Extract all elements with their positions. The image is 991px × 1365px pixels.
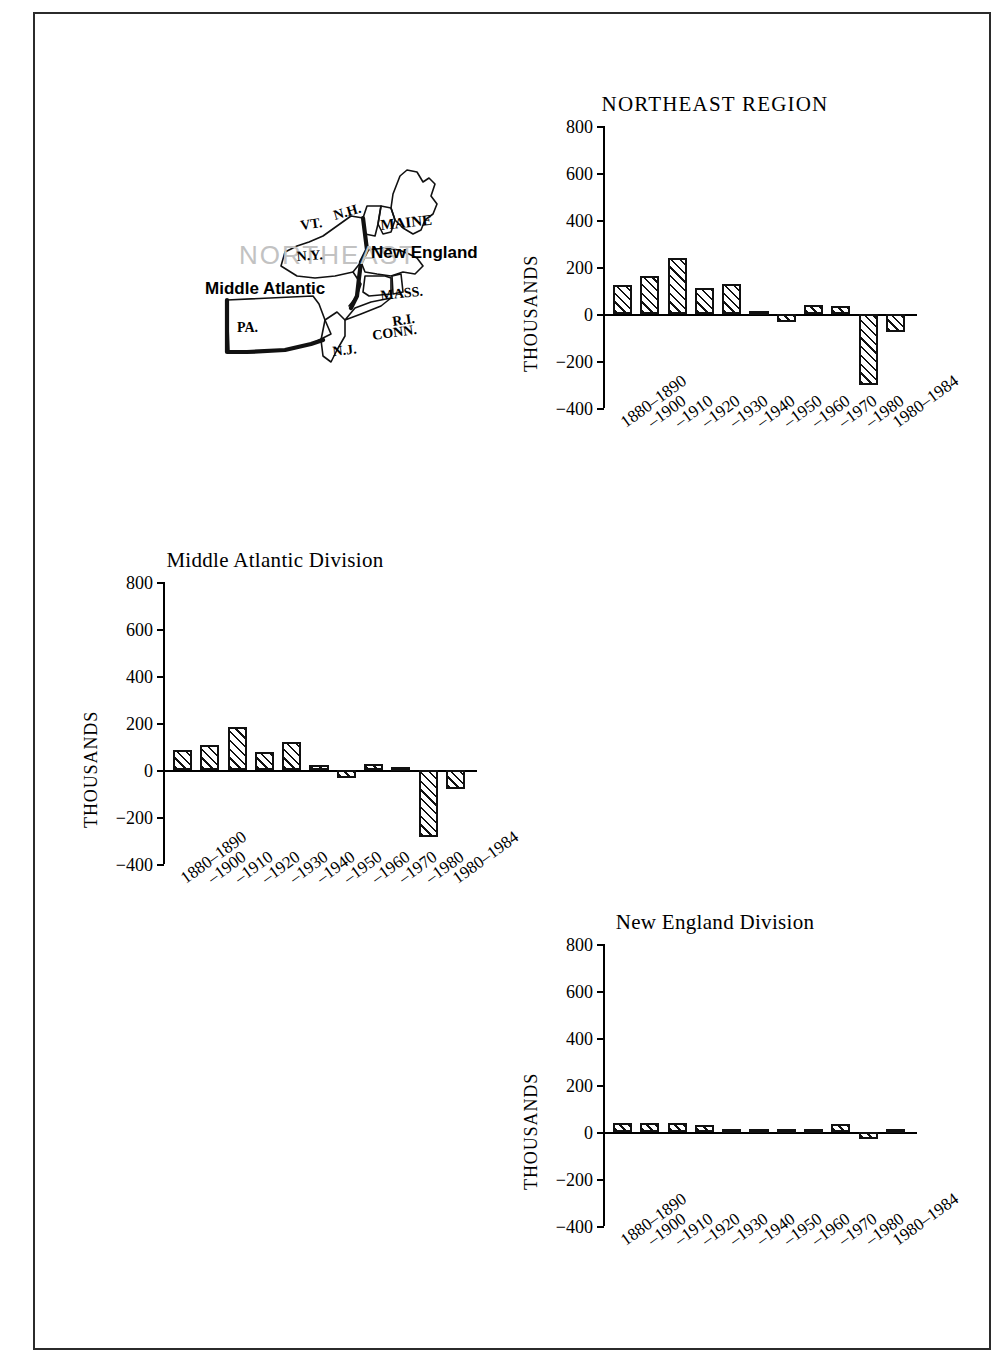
plot-area-northeast-region: 8006004002000−200−400THOUSANDS1880–1890–… <box>505 120 925 420</box>
bar <box>640 1123 659 1132</box>
y-tick-label: −200 <box>537 1170 593 1191</box>
y-tick-label: 400 <box>537 1029 593 1050</box>
map-label-pa: PA. <box>237 320 258 335</box>
y-tick <box>157 676 164 678</box>
bar <box>282 742 301 770</box>
map-label-conn: CONN. <box>371 322 417 343</box>
bar <box>200 745 219 770</box>
bar <box>255 752 274 770</box>
map-label-maine: MAINE <box>380 212 433 233</box>
bar <box>831 306 850 314</box>
bar <box>173 750 192 770</box>
y-tick-label: 600 <box>537 982 593 1003</box>
y-tick-label: −400 <box>537 1217 593 1238</box>
page-frame: NORTHEAST VT. N.H. MAINE N.Y. MASS. R.I.… <box>33 12 991 1350</box>
northeast-region-map: NORTHEAST VT. N.H. MAINE N.Y. MASS. R.I.… <box>185 154 485 394</box>
bar <box>364 764 383 770</box>
map-label-mass: MASS. <box>380 284 424 303</box>
bar <box>831 1124 850 1132</box>
y-tick-label: 800 <box>537 935 593 956</box>
y-tick <box>597 361 604 363</box>
y-tick <box>597 408 604 410</box>
map-label-nh: N.H. <box>332 201 363 223</box>
y-tick-label: 0 <box>97 761 153 782</box>
y-axis-title: THOUSANDS <box>81 711 102 828</box>
y-tick-label: 200 <box>537 258 593 279</box>
y-tick-label: 0 <box>537 305 593 326</box>
bar <box>613 285 632 314</box>
map-label-middle-atlantic: Middle Atlantic <box>205 279 325 298</box>
y-tick <box>597 1085 604 1087</box>
y-tick <box>157 582 164 584</box>
bar <box>722 1129 741 1133</box>
plot-area-new-england-division: 8006004002000−200−400THOUSANDS1880–1890–… <box>505 938 925 1238</box>
map-label-vt: VT. <box>299 215 323 233</box>
y-tick-label: 400 <box>97 667 153 688</box>
y-tick-label: 200 <box>537 1076 593 1097</box>
y-tick-label: −400 <box>537 399 593 420</box>
bar <box>613 1123 632 1132</box>
map-label-nj: N.J. <box>332 342 358 359</box>
bar <box>309 765 328 770</box>
y-tick <box>157 770 164 772</box>
bar <box>695 288 714 314</box>
bar <box>749 1129 768 1133</box>
y-tick <box>597 944 604 946</box>
chart-title-new-england-division: New England Division <box>505 910 925 935</box>
y-tick <box>597 314 604 316</box>
y-tick <box>597 1038 604 1040</box>
bar <box>419 770 438 837</box>
y-tick-label: 400 <box>537 211 593 232</box>
bar <box>859 1132 878 1139</box>
y-tick <box>157 817 164 819</box>
y-tick-label: 0 <box>537 1123 593 1144</box>
bar <box>695 1125 714 1132</box>
y-tick-label: −200 <box>97 808 153 829</box>
bar <box>640 276 659 314</box>
map-label-ny: N.Y. <box>296 247 323 264</box>
plot-area-middle-atlantic-division: 8006004002000−200−400THOUSANDS1880–1890–… <box>65 576 485 876</box>
y-tick <box>157 723 164 725</box>
y-tick <box>157 864 164 866</box>
bar <box>668 258 687 314</box>
bar <box>804 305 823 314</box>
y-tick <box>597 220 604 222</box>
bar <box>886 1129 905 1133</box>
bar <box>777 1129 796 1133</box>
bar <box>859 314 878 385</box>
y-tick <box>597 1132 604 1134</box>
bar <box>391 767 410 771</box>
chart-title-northeast-region: NORTHEAST REGION <box>505 92 925 117</box>
y-tick <box>597 1226 604 1228</box>
bar <box>749 311 768 315</box>
chart-middle-atlantic-division: Middle Atlantic Division 8006004002000−2… <box>65 524 485 904</box>
y-tick <box>597 126 604 128</box>
y-tick-label: −200 <box>537 352 593 373</box>
y-tick <box>597 173 604 175</box>
y-tick-label: 600 <box>97 620 153 641</box>
y-tick-label: −400 <box>97 855 153 876</box>
y-tick-label: 200 <box>97 714 153 735</box>
map-label-new-england: New England <box>371 243 478 262</box>
y-tick-label: 600 <box>537 164 593 185</box>
bar <box>337 770 356 778</box>
y-tick <box>597 267 604 269</box>
y-tick-label: 800 <box>97 573 153 594</box>
y-tick <box>157 629 164 631</box>
y-axis-title: THOUSANDS <box>521 255 542 372</box>
y-tick <box>597 1179 604 1181</box>
bar <box>446 770 465 789</box>
chart-new-england-division: New England Division 8006004002000−200−4… <box>505 886 925 1266</box>
bar <box>777 314 796 322</box>
bar <box>804 1129 823 1133</box>
bar <box>722 284 741 314</box>
bar <box>886 314 905 332</box>
map-svg: NORTHEAST VT. N.H. MAINE N.Y. MASS. R.I.… <box>185 154 485 394</box>
bar <box>228 727 247 770</box>
y-tick-label: 800 <box>537 117 593 138</box>
y-axis-title: THOUSANDS <box>521 1073 542 1190</box>
chart-title-middle-atlantic-division: Middle Atlantic Division <box>65 548 485 573</box>
bar <box>668 1123 687 1132</box>
chart-northeast-region: NORTHEAST REGION 8006004002000−200−400TH… <box>505 86 925 466</box>
y-tick <box>597 991 604 993</box>
